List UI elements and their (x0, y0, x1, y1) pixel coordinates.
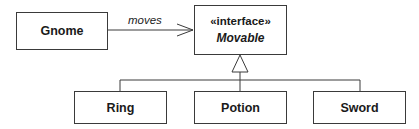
class-name: Gnome (40, 24, 83, 38)
stereotype-label: «interface» (210, 13, 271, 30)
class-name: Potion (221, 101, 260, 115)
realization-triangle-icon (232, 55, 248, 72)
class-name: Sword (340, 101, 378, 115)
interface-movable: «interface» Movable (194, 5, 287, 55)
class-sword: Sword (313, 91, 406, 124)
class-ring: Ring (74, 91, 167, 124)
interface-name: Movable (216, 30, 264, 47)
association-label: moves (128, 14, 162, 26)
class-name: Ring (107, 101, 135, 115)
class-potion: Potion (194, 91, 287, 124)
class-gnome: Gnome (16, 12, 108, 50)
